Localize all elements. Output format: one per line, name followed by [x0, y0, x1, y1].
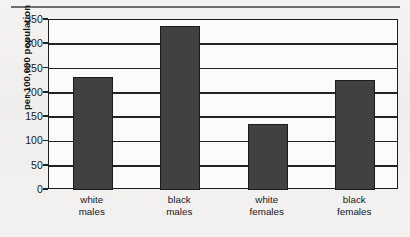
y-axis-tick-mark — [43, 188, 48, 190]
y-axis-tick-mark — [43, 42, 48, 44]
x-axis-category-label-line: white — [42, 194, 142, 206]
top-horizontal-rule — [11, 6, 400, 8]
y-axis-tick-label: 300 — [25, 37, 43, 49]
x-axis-category-label-line: females — [217, 206, 317, 218]
x-axis-category-label: blackmales — [129, 194, 229, 217]
x-axis-category-label-line: white — [217, 194, 317, 206]
y-axis-tick-mark — [43, 67, 48, 69]
x-axis-category-label: blackfemales — [304, 194, 404, 217]
y-axis-tick-label: 200 — [25, 86, 43, 98]
bar-chart-plot-area — [48, 19, 398, 189]
y-axis-tick-mark — [43, 91, 48, 93]
y-axis-tick-label: 150 — [25, 110, 43, 122]
x-axis-category-label: whitefemales — [217, 194, 317, 217]
bar — [335, 80, 375, 190]
x-axis-category-label: whitemales — [42, 194, 142, 217]
y-axis-tick-label: 350 — [25, 13, 43, 25]
y-axis-tick-label: 50 — [31, 159, 43, 171]
gridline — [49, 68, 397, 70]
x-axis-category-label-line: females — [304, 206, 404, 218]
x-axis-category-label-line: males — [129, 206, 229, 218]
y-axis-tick-mark — [43, 115, 48, 117]
y-axis-tick-label: 100 — [25, 134, 43, 146]
y-axis-tick-mark — [43, 18, 48, 20]
x-axis-category-label-line: black — [129, 194, 229, 206]
y-axis-tick-mark — [43, 140, 48, 142]
x-axis-category-label-line: black — [304, 194, 404, 206]
y-axis-tick-label: 250 — [25, 62, 43, 74]
y-axis-tick-mark — [43, 164, 48, 166]
gridline — [49, 43, 397, 45]
bar — [248, 124, 288, 190]
x-axis-category-label-line: males — [42, 206, 142, 218]
y-axis-tick-labels: 350300250200150100500 — [0, 19, 43, 189]
bar — [160, 26, 200, 190]
bar — [73, 77, 113, 190]
